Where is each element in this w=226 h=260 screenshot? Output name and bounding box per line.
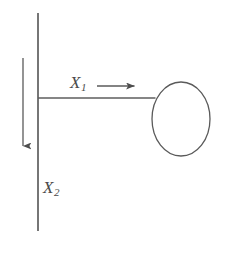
label-x1-subscript: 1 bbox=[81, 81, 87, 93]
label-x2-base: X bbox=[43, 178, 53, 197]
diagram-svg bbox=[0, 0, 226, 260]
label-x1: X1 bbox=[70, 74, 86, 93]
diagram-canvas: X1 X2 bbox=[0, 0, 226, 260]
body-ellipse bbox=[152, 82, 210, 156]
label-x2: X2 bbox=[43, 179, 59, 198]
label-x2-subscript: 2 bbox=[54, 186, 60, 198]
label-x1-base: X bbox=[70, 73, 80, 92]
